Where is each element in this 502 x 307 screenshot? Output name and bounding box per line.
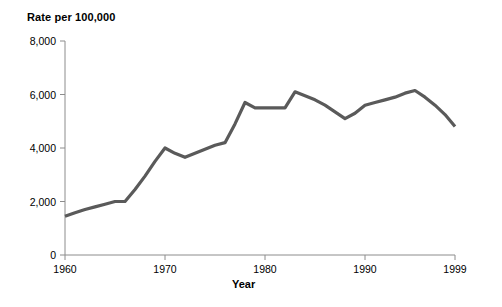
- x-tick-label: 1990: [353, 263, 377, 275]
- x-tick-label: 1999: [443, 263, 467, 275]
- y-tick-label: 0: [50, 249, 56, 261]
- chart-figure: Rate per 100,000 02,0004,0006,0008,000 1…: [0, 0, 502, 307]
- x-axis-label: Year: [232, 278, 255, 290]
- x-tick-label: 1980: [253, 263, 277, 275]
- y-tick-label: 4,000: [30, 142, 56, 154]
- y-tick-label: 2,000: [30, 196, 56, 208]
- y-axis: 02,0004,0006,0008,000: [30, 35, 65, 261]
- y-tick-marks: [60, 41, 65, 255]
- x-tick-label: 1970: [153, 263, 177, 275]
- x-tick-label: 1960: [53, 263, 77, 275]
- line-chart-plot: 02,0004,0006,0008,000 196019701980199019…: [0, 0, 502, 307]
- x-axis: 19601970198019901999: [53, 255, 467, 275]
- data-series-line: [65, 90, 455, 216]
- y-tick-label: 6,000: [30, 89, 56, 101]
- x-tick-labels: 19601970198019901999: [53, 263, 467, 275]
- y-tick-labels: 02,0004,0006,0008,000: [30, 35, 56, 261]
- y-tick-label: 8,000: [30, 35, 56, 47]
- x-tick-marks: [65, 255, 455, 260]
